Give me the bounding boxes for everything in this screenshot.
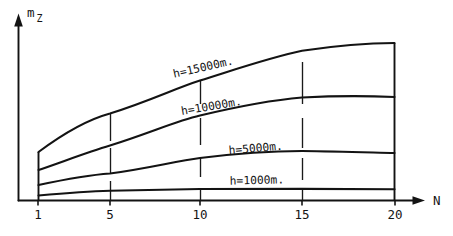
series-curve-h1000 <box>39 189 395 196</box>
series-label-h1000: h=1000m. <box>230 173 285 187</box>
series-labels-group: h=15000m. h=10000m. h=5000m. h=1000m. <box>172 55 284 188</box>
chart-canvas: 1 5 10 15 20 m Z N <box>0 0 453 236</box>
x-tick-label-1: 1 <box>34 207 42 222</box>
y-axis-label-subscript: Z <box>37 13 43 24</box>
x-tick-label-10: 10 <box>192 207 207 222</box>
x-tick-label-15: 15 <box>294 207 309 222</box>
series-label-h5000: h=5000m. <box>228 140 283 158</box>
series-label-h15000: h=15000m. <box>172 55 235 81</box>
y-axis-arrow-icon <box>14 14 23 27</box>
series-label-h10000: h=10000m. <box>180 95 243 118</box>
chart-figure: 1 5 10 15 20 m Z N <box>0 0 453 236</box>
x-axis-arrow-icon <box>413 196 426 204</box>
y-axis-label-base: m <box>27 5 35 20</box>
x-tick-label-20: 20 <box>387 207 402 222</box>
x-tick-labels-group: 1 5 10 15 20 <box>34 207 402 222</box>
x-axis-label: N <box>433 193 441 208</box>
series-curve-h5000 <box>39 151 395 185</box>
x-tick-label-5: 5 <box>106 207 114 222</box>
